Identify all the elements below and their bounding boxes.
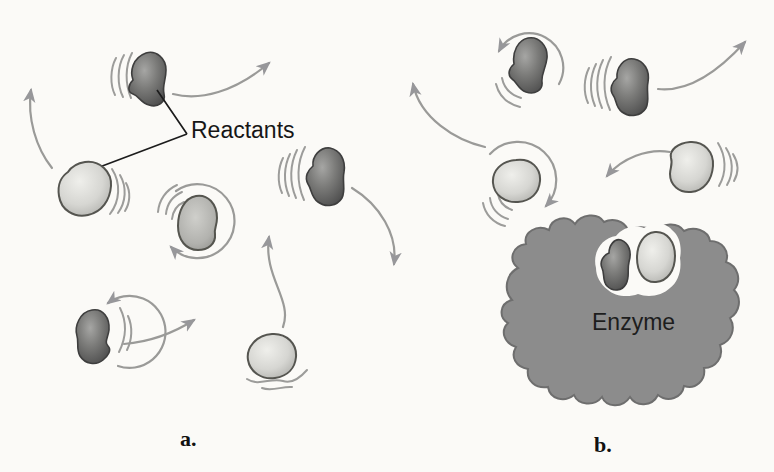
enzyme-reaction-figure: Reactants Enzyme a. b. bbox=[0, 0, 774, 472]
vibration-lines bbox=[279, 147, 305, 200]
reactant-dark-blob bbox=[129, 52, 166, 105]
reactant-light-blob bbox=[248, 334, 296, 378]
reactant-light-blob bbox=[493, 160, 540, 202]
reactant-light-1 bbox=[59, 162, 130, 216]
reactants-label: Reactants bbox=[191, 117, 295, 144]
reactant-rotating-2 bbox=[76, 296, 165, 368]
reactant-dark-blob bbox=[611, 59, 648, 116]
motion-arrow bbox=[352, 188, 395, 264]
reactant-dark-3 bbox=[585, 57, 649, 115]
label-pointer-lines bbox=[89, 90, 187, 171]
figure-canvas bbox=[0, 0, 774, 472]
reactant-mid-blob bbox=[178, 196, 217, 250]
reactant-dark-1 bbox=[111, 52, 166, 105]
motion-arrow bbox=[173, 63, 269, 96]
vibration-lines bbox=[718, 143, 737, 186]
motion-arrow bbox=[30, 90, 52, 168]
motion-arrow bbox=[607, 151, 670, 176]
reactant-dark-blob bbox=[509, 38, 547, 93]
reactant-rotating-1 bbox=[158, 184, 234, 258]
rotation-arrow bbox=[108, 296, 165, 368]
reactant-dark-blob bbox=[306, 148, 344, 206]
motion-arrow bbox=[658, 42, 745, 89]
reactant-light-3 bbox=[670, 142, 737, 192]
enzyme-label: Enzyme bbox=[592, 309, 675, 336]
vibration-lines bbox=[119, 308, 131, 352]
panel-b bbox=[413, 33, 745, 405]
reactant-light-2 bbox=[247, 334, 307, 389]
panel-b-caption: b. bbox=[594, 432, 612, 458]
motion-arrow bbox=[268, 237, 285, 327]
reactant-light-blob bbox=[670, 142, 713, 192]
vibration-lines bbox=[110, 169, 129, 214]
reactant-rotating-3 bbox=[496, 33, 563, 107]
reactant-dark-blob bbox=[76, 310, 109, 364]
motion-arrow bbox=[124, 320, 194, 344]
bound-reactant-light bbox=[637, 232, 675, 282]
reactant-dark-2 bbox=[279, 147, 345, 205]
motion-arrow bbox=[413, 84, 485, 147]
reactant-rotating-4 bbox=[483, 142, 556, 226]
vibration-lines bbox=[585, 57, 611, 110]
panel-a-caption: a. bbox=[180, 426, 197, 452]
reactant-light-blob bbox=[59, 162, 112, 216]
panel-a bbox=[30, 52, 395, 389]
